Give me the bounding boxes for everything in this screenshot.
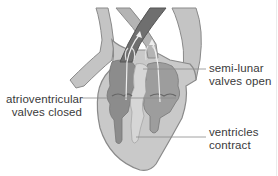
- label-av-line1: atrioventricular: [6, 93, 82, 106]
- label-av-line2: valves closed: [6, 106, 82, 119]
- label-semilunar-line1: semi-lunar: [209, 62, 271, 75]
- label-semilunar-line2: valves open: [209, 75, 271, 88]
- heart-diagram: semi-lunar valves open atrioventricular …: [0, 0, 278, 176]
- label-ventricles: ventricles contract: [209, 126, 259, 152]
- label-ventricles-line1: ventricles: [209, 126, 259, 139]
- label-av-valves: atrioventricular valves closed: [6, 93, 82, 119]
- right-edge-divider: [276, 0, 277, 176]
- label-ventricles-line2: contract: [209, 139, 259, 152]
- label-semilunar-valves: semi-lunar valves open: [209, 62, 271, 88]
